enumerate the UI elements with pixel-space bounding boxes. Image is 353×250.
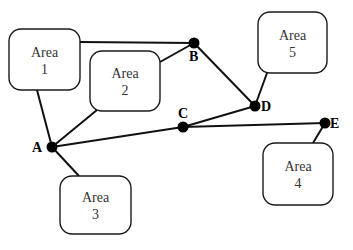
area-label-number: 3 [92, 207, 99, 222]
area-label-number: 2 [122, 83, 129, 98]
node-label: C [178, 106, 188, 121]
node-b: B [189, 38, 200, 65]
area-box-frame [90, 51, 160, 111]
node-dot [320, 118, 331, 129]
area-label-line1: Area [284, 159, 312, 174]
area-box-3: Area3 [60, 176, 131, 234]
area-box-2: Area2 [90, 51, 160, 111]
node-dot [178, 122, 189, 133]
area-box-frame [263, 143, 333, 205]
area-label-line1: Area [31, 45, 59, 60]
network-diagram: Area1Area2Area3Area4Area5 ABCDE [0, 0, 353, 250]
node-dot [250, 101, 261, 112]
node-dot [189, 38, 200, 49]
area-label-number: 4 [295, 176, 302, 191]
area-box-4: Area4 [263, 143, 333, 205]
area-label-line1: Area [279, 28, 307, 43]
area-label-number: 1 [41, 62, 48, 77]
edge-a-area3 [52, 147, 79, 176]
area-box-frame [258, 12, 327, 73]
node-label: E [330, 116, 339, 131]
edge-b-d [194, 43, 255, 106]
area-box-5: Area5 [258, 12, 327, 73]
node-c: C [178, 106, 189, 133]
area-label-line1: Area [111, 66, 139, 81]
edge-area1-a [37, 90, 52, 147]
area-box-frame [9, 29, 80, 90]
area-box-1: Area1 [9, 29, 80, 90]
edge-area1-b [80, 42, 194, 43]
node-label: B [189, 49, 198, 64]
node-dot [47, 142, 58, 153]
node-label: A [32, 140, 43, 155]
areas-layer: Area1Area2Area3Area4Area5 [9, 12, 333, 234]
node-label: D [261, 99, 271, 114]
edge-c-d [183, 106, 255, 127]
area-label-line1: Area [82, 190, 110, 205]
area-box-frame [60, 176, 131, 234]
node-a: A [32, 140, 58, 155]
edge-c-e [183, 123, 325, 127]
node-d: D [250, 99, 272, 114]
area-label-number: 5 [289, 45, 296, 60]
